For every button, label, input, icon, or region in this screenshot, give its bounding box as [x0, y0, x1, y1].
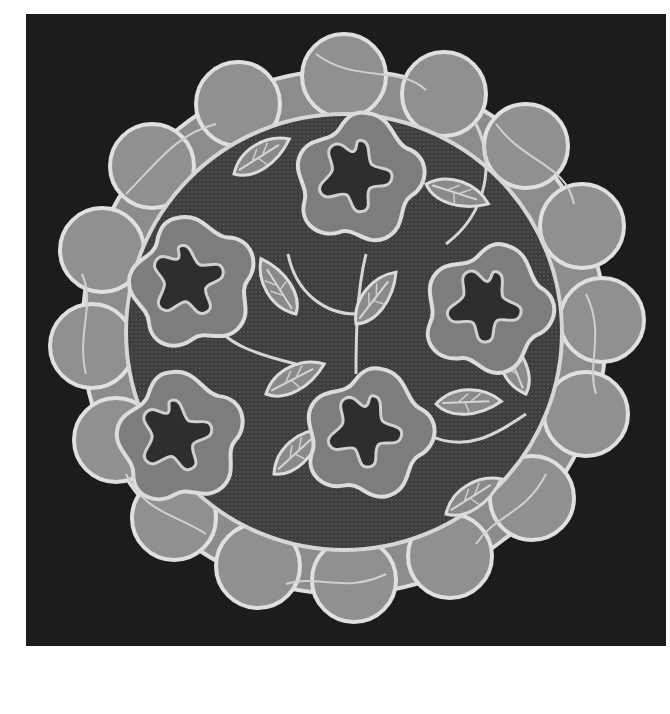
doily-photograph: Round lace doily with five-petal flowers…: [26, 14, 666, 646]
lace-doily-illustration: [26, 14, 666, 646]
